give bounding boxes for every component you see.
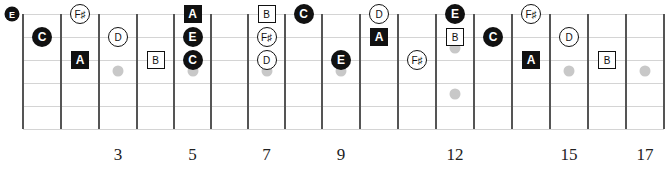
note-d-open-circle-icon: D — [369, 4, 389, 24]
note-b-open-square-icon: B — [258, 5, 276, 23]
note-c-filled-circle-icon: C — [483, 27, 503, 47]
note-e-filled-circle-icon: E — [183, 27, 203, 47]
string-line-1 — [23, 14, 664, 15]
note-a-filled-square-icon: A — [522, 51, 540, 69]
fret-line-2 — [98, 14, 100, 129]
note-b-open-square-icon: B — [598, 51, 616, 69]
note-f-sharp-open-circle-icon: F♯ — [407, 50, 427, 70]
fret-line-15 — [587, 14, 589, 129]
fret-number-label: 7 — [262, 145, 271, 165]
note-a-filled-square-icon: A — [370, 28, 388, 46]
note-c-filled-circle-icon: C — [183, 50, 203, 70]
fret-line-13 — [511, 14, 513, 129]
fret-line-14 — [549, 14, 551, 129]
fret-line-11 — [435, 14, 437, 129]
fret-line-7 — [284, 14, 286, 129]
string-line-6 — [23, 129, 664, 130]
string-line-4 — [23, 83, 664, 84]
fret-number-label: 15 — [561, 145, 578, 165]
note-b-open-square-icon: B — [147, 51, 165, 69]
inlay-dot-icon — [640, 66, 651, 77]
fret-number-label: 9 — [337, 145, 346, 165]
note-f-sharp-open-circle-icon: F♯ — [257, 27, 277, 47]
fret-number-label: 3 — [114, 145, 123, 165]
inlay-dot-icon — [564, 66, 575, 77]
fret-line-17 — [663, 14, 665, 129]
note-e-filled-circle-icon: E — [331, 50, 351, 70]
fretboard-diagram: EF♯ABCDEF♯CDEF♯ABCDABCDEF♯AB3579121517 — [0, 0, 667, 174]
fret-number-label: 5 — [188, 145, 197, 165]
note-c-filled-circle-icon: C — [32, 27, 52, 47]
inlay-dot-icon — [450, 89, 461, 100]
note-a-filled-square-icon: A — [71, 51, 89, 69]
fret-line-9 — [359, 14, 361, 129]
fret-line-6 — [247, 14, 249, 129]
fret-number-label: 17 — [637, 145, 654, 165]
fret-line-3 — [136, 14, 138, 129]
inlay-dot-icon — [113, 66, 124, 77]
note-f-sharp-open-circle-icon: F♯ — [70, 4, 90, 24]
fret-line-10 — [397, 14, 399, 129]
note-a-filled-square-icon: A — [184, 5, 202, 23]
fret-line-1 — [60, 14, 62, 129]
nut-line — [22, 14, 24, 129]
note-f-sharp-open-circle-icon: F♯ — [521, 4, 541, 24]
string-line-5 — [23, 106, 664, 107]
fret-line-4 — [173, 14, 175, 129]
fret-line-16 — [625, 14, 627, 129]
note-e-filled-circle-icon: E — [445, 4, 465, 24]
note-d-open-circle-icon: D — [559, 27, 579, 47]
note-e-filled-circle-icon: E — [5, 7, 20, 22]
fret-line-5 — [210, 14, 212, 129]
note-c-filled-circle-icon: C — [294, 4, 314, 24]
fret-line-8 — [321, 14, 323, 129]
note-d-open-circle-icon: D — [257, 50, 277, 70]
note-d-open-circle-icon: D — [108, 27, 128, 47]
fret-number-label: 12 — [447, 145, 464, 165]
fret-line-12 — [473, 14, 475, 129]
note-b-open-square-icon: B — [446, 28, 464, 46]
